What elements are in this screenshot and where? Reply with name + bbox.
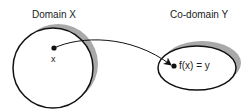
codomain-title: Co-domain Y: [170, 10, 228, 20]
codomain-point-dot: [171, 63, 176, 68]
function-mapping-diagram: Domain X Co-domain Y x f(x) = y: [0, 0, 252, 109]
domain-point-dot: [51, 45, 56, 50]
domain-shadow: [13, 24, 98, 108]
codomain-point-label: f(x) = y: [179, 61, 210, 71]
domain-title: Domain X: [32, 10, 76, 20]
domain-point-label: x: [51, 54, 56, 64]
